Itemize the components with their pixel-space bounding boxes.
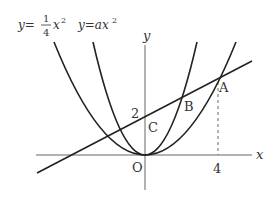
point-b-label: B bbox=[184, 99, 194, 114]
curve1-label: y= 1 4 x 2 bbox=[17, 13, 66, 38]
tick-label-4: 4 bbox=[213, 161, 221, 176]
graph-canvas: y x O 4 2 C B A y= 1 4 x 2 y=ax 2 bbox=[0, 0, 275, 200]
y-axis-label: y bbox=[142, 28, 151, 43]
curve1-numerator: 1 bbox=[43, 13, 49, 24]
tick-label-2: 2 bbox=[131, 106, 139, 121]
curve1-denominator: 4 bbox=[43, 27, 49, 38]
point-c-label: C bbox=[148, 120, 158, 135]
point-a-label: A bbox=[218, 80, 229, 95]
curve2-text: y=ax bbox=[77, 18, 109, 32]
origin-label: O bbox=[132, 160, 143, 175]
x-axis-label: x bbox=[256, 147, 264, 162]
curve2-label: y=ax 2 bbox=[77, 16, 117, 32]
curve1-exp: 2 bbox=[61, 16, 66, 25]
curve1-var: x bbox=[53, 18, 60, 32]
curve1-lhs: y= bbox=[17, 18, 35, 32]
curve2-exp: 2 bbox=[112, 16, 117, 25]
